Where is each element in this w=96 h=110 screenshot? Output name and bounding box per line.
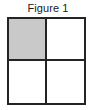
square-cell-bottom-left: [9, 61, 47, 103]
figure-container: Figure 1: [0, 0, 96, 110]
partitioned-square: [7, 17, 86, 105]
figure-caption: Figure 1: [0, 1, 96, 15]
square-cell-top-left: [9, 19, 47, 61]
square-cell-top-right: [47, 19, 85, 61]
square-cell-bottom-right: [47, 61, 85, 103]
